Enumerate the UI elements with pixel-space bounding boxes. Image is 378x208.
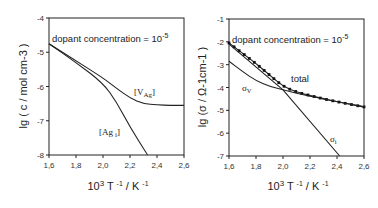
x-tick-label: 1,8 — [70, 161, 82, 170]
y-tick-label: -5 — [217, 106, 225, 115]
label-total: total — [291, 73, 309, 84]
right-annotation: dopant concentration = 10-5 — [232, 33, 348, 45]
x-tick-label: 1,6 — [43, 161, 55, 170]
x-tick-label: 2,2 — [304, 162, 316, 171]
series-line — [49, 44, 184, 106]
data-marker — [288, 88, 291, 91]
x-tick-label: 2,4 — [151, 161, 163, 170]
y-tick-label: -1 — [217, 15, 225, 24]
x-tick-label: 2,0 — [97, 161, 109, 170]
left-y-ticks: -4-5-6-7-8 — [37, 14, 49, 160]
left-plot: -4-5-6-7-8 1,61,82,02,22,42,6 dopant con… — [17, 14, 190, 192]
figure: -4-5-6-7-8 1,61,82,02,22,42,6 dopant con… — [0, 0, 378, 208]
data-marker — [277, 81, 280, 84]
left-x-ticks: 1,61,82,02,22,42,6 — [43, 155, 190, 170]
x-tick-label: 2,4 — [331, 162, 343, 171]
y-tick-label: -5 — [37, 48, 45, 57]
label-v-ag: [VAg] — [134, 87, 155, 99]
right-x-axis-label: 103 T -1 / K -1 — [267, 179, 328, 192]
data-marker — [248, 57, 251, 60]
y-tick-label: -7 — [217, 152, 225, 161]
series-line — [229, 61, 364, 107]
data-marker — [258, 65, 261, 68]
label-sigma-i: σi — [330, 134, 337, 145]
right-plot: -1-2-3-4-5-6-7 1,61,82,02,22,42,6 dopant… — [196, 15, 370, 192]
data-marker — [283, 85, 286, 88]
y-tick-label: -8 — [37, 151, 45, 160]
y-tick-label: -2 — [217, 38, 225, 47]
data-marker — [272, 77, 275, 80]
right-series — [228, 42, 366, 156]
y-tick-label: -6 — [217, 129, 225, 138]
x-tick-label: 2,6 — [178, 161, 190, 170]
label-sigma-v: σV — [242, 83, 252, 94]
x-tick-label: 2,2 — [124, 161, 136, 170]
left-x-axis-label: 103 T -1 / K -1 — [87, 179, 148, 192]
x-tick-label: 2,6 — [358, 162, 370, 171]
data-marker — [228, 42, 231, 45]
x-tick-label: 1,8 — [250, 162, 262, 171]
right-y-axis-label: lg (σ / Ω-1cm-1 ) — [196, 47, 208, 127]
y-tick-label: -6 — [37, 83, 45, 92]
y-tick-label: -4 — [217, 84, 225, 93]
data-marker — [263, 69, 266, 72]
data-marker — [268, 73, 271, 76]
right-y-ticks: -1-2-3-4-5-6-7 — [217, 15, 229, 161]
label-ag-i: [Agi] — [99, 127, 120, 139]
y-tick-label: -7 — [37, 117, 45, 126]
x-tick-label: 2,0 — [277, 162, 289, 171]
x-tick-label: 1,6 — [223, 162, 235, 171]
right-x-ticks: 1,61,82,02,22,42,6 — [223, 156, 370, 171]
data-marker — [253, 61, 256, 64]
series-line — [229, 44, 340, 156]
y-tick-label: -3 — [217, 61, 225, 70]
y-tick-label: -4 — [37, 14, 45, 23]
left-annotation: dopant concentration = 10-5 — [52, 32, 168, 44]
left-y-axis-label: lg ( c / mol cm-3 ) — [17, 44, 29, 129]
